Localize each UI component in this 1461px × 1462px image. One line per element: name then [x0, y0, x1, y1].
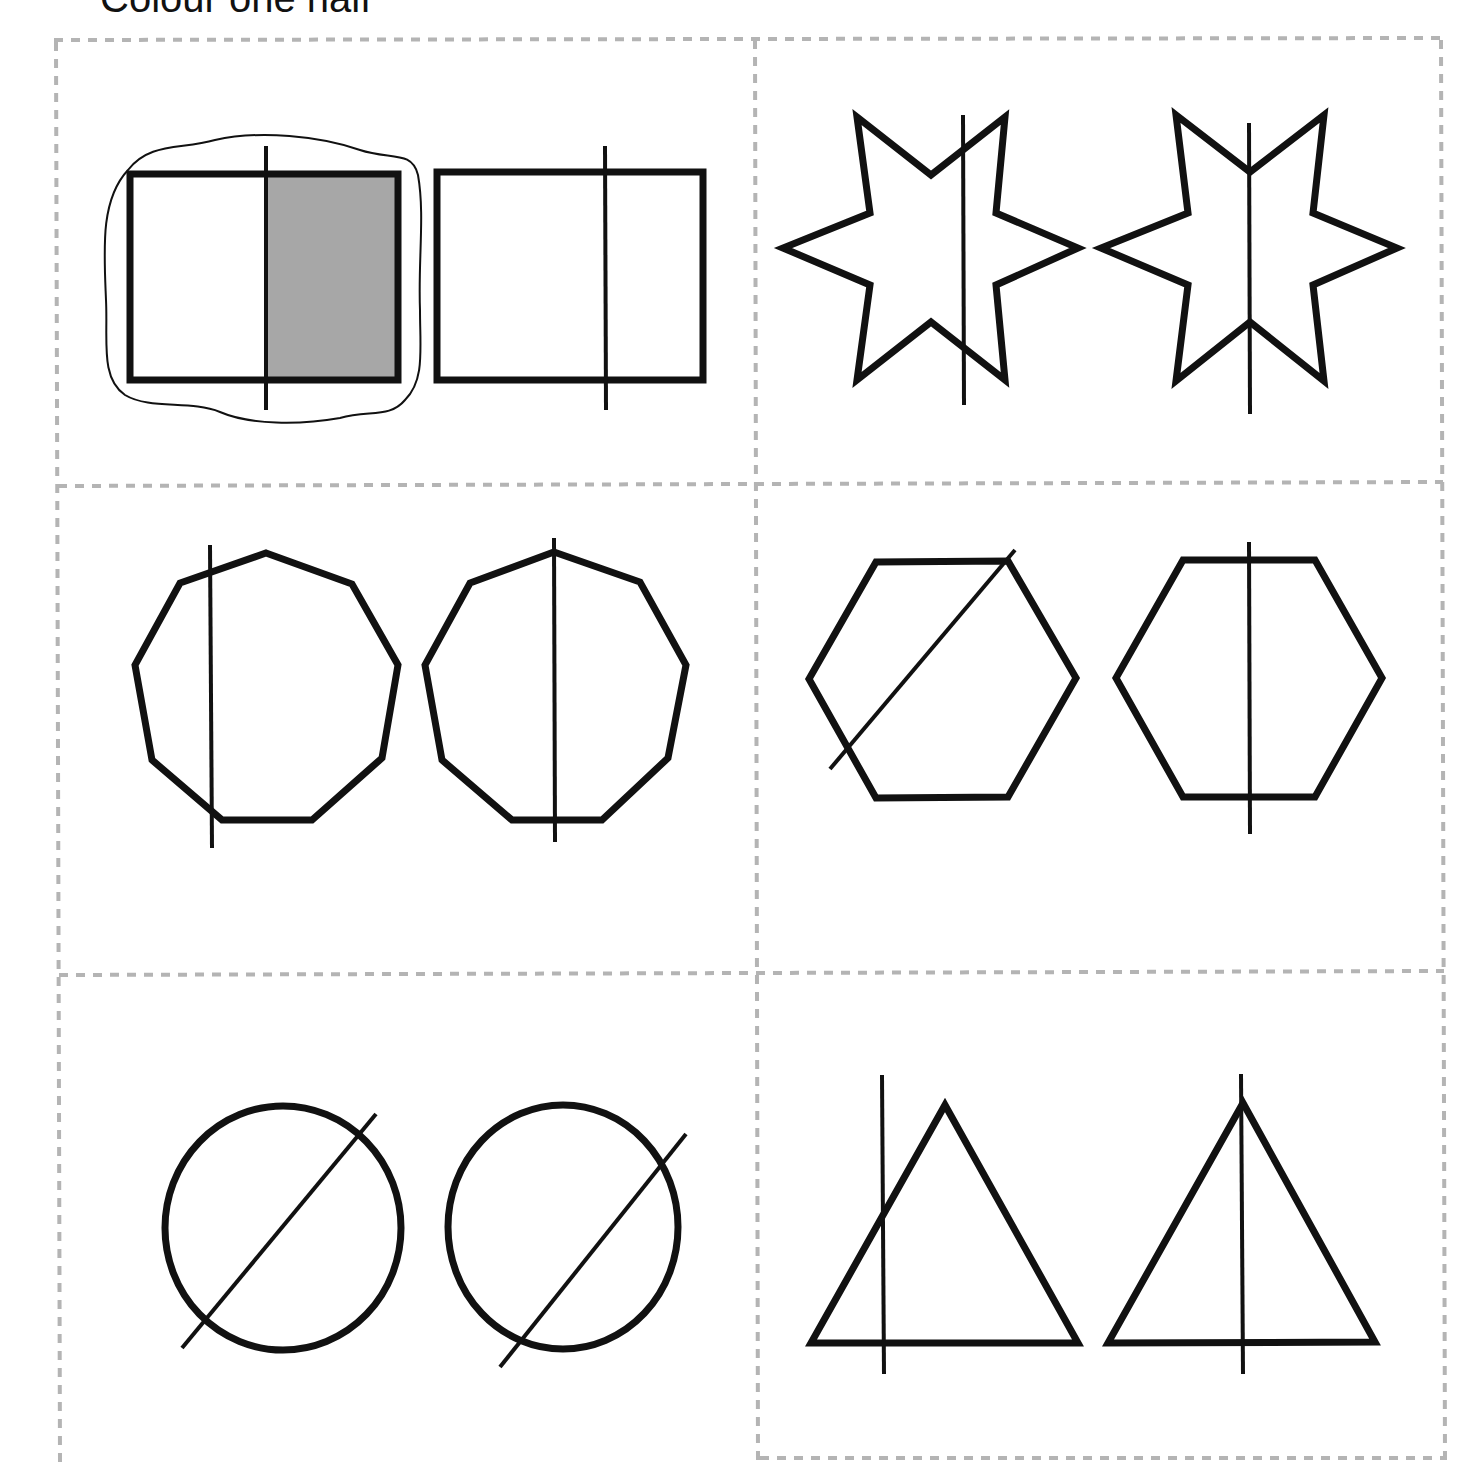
- dividing-line: [182, 1114, 376, 1348]
- cell-nonagons: [135, 538, 686, 848]
- dividing-line: [500, 1134, 686, 1367]
- nonagon-option-1[interactable]: [135, 545, 398, 848]
- star-outline: [783, 117, 1078, 380]
- dividing-line: [1241, 1074, 1243, 1374]
- cell-rectangles: [105, 135, 703, 423]
- star-option-2[interactable]: [1101, 115, 1397, 414]
- grid-row-divider-1: [58, 482, 1443, 486]
- rectangle-outline: [437, 172, 703, 380]
- circle-outline: [448, 1105, 678, 1349]
- hexagon-option-1[interactable]: [809, 550, 1076, 798]
- hexagon-outline: [809, 561, 1076, 798]
- cell-circles: [165, 1105, 686, 1367]
- cell-triangles: [811, 1074, 1375, 1374]
- worksheet-grid: [0, 0, 1461, 1462]
- shaded-half: [266, 174, 398, 380]
- dividing-line: [830, 550, 1015, 769]
- triangle-option-1[interactable]: [811, 1075, 1078, 1374]
- dividing-line: [605, 146, 606, 410]
- hexagon-option-2[interactable]: [1116, 542, 1382, 834]
- nonagon-option-2[interactable]: [425, 538, 686, 842]
- dividing-line: [554, 538, 555, 842]
- triangle-outline: [811, 1105, 1078, 1343]
- grid-left-border: [56, 42, 60, 1462]
- nonagon-outline: [135, 553, 398, 820]
- dividing-line: [210, 545, 212, 848]
- grid-center-divider: [755, 40, 758, 1462]
- dividing-line: [1249, 123, 1250, 414]
- rectangle-option-2[interactable]: [437, 146, 703, 410]
- dividing-line: [882, 1075, 884, 1374]
- dividing-line: [963, 115, 964, 405]
- dividing-line: [1249, 542, 1250, 834]
- grid-right-border: [1441, 40, 1445, 1460]
- grid-row-divider-2: [59, 971, 1444, 975]
- star-option-1[interactable]: [783, 115, 1078, 405]
- circle-option-1[interactable]: [165, 1106, 401, 1350]
- grid-top-border: [54, 38, 1440, 40]
- cell-stars: [783, 115, 1397, 414]
- circle-option-2[interactable]: [448, 1105, 686, 1367]
- rectangle-option-1[interactable]: [105, 135, 422, 423]
- cell-hexagons: [809, 542, 1382, 834]
- triangle-option-2[interactable]: [1108, 1074, 1375, 1374]
